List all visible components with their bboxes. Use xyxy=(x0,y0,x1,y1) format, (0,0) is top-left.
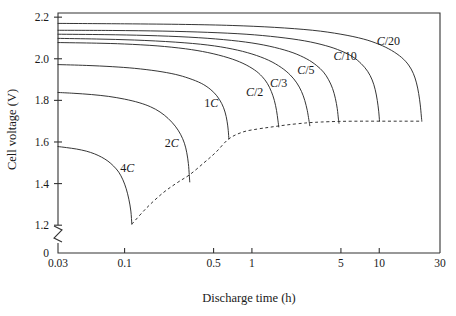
x-tick-label: 0.5 xyxy=(206,257,221,269)
y-tick-label: 2.2 xyxy=(35,11,50,23)
series-label-1c: 1C xyxy=(204,96,219,110)
x-tick-label: 30 xyxy=(434,257,446,269)
x-tick-label: 0.1 xyxy=(117,257,132,269)
x-axis-title: Discharge time (h) xyxy=(202,291,296,305)
x-axis-ticks xyxy=(125,248,380,253)
series-label-c-2: C/2 xyxy=(246,85,263,99)
y-axis-zero-label: 0 xyxy=(43,247,49,259)
series-label-4c: 4C xyxy=(120,161,135,175)
x-tick-label: 1 xyxy=(249,257,255,269)
y-tick-label: 1.8 xyxy=(35,94,50,106)
series-label-c-3: C/3 xyxy=(270,76,287,90)
series-label-2c: 2C xyxy=(165,136,180,150)
curve-1c xyxy=(58,65,229,139)
x-tick-label: 5 xyxy=(338,257,344,269)
y-tick-label: 2.0 xyxy=(35,53,50,65)
discharge-curves xyxy=(58,23,422,224)
y-axis-tick-labels: 1.21.41.61.82.02.2 xyxy=(35,11,50,231)
plot-frame xyxy=(58,13,440,253)
chart-figure: 0.030.10.5151030 1.21.41.61.82.02.2 0 4C… xyxy=(0,0,456,316)
curve-c-5 xyxy=(58,34,339,123)
y-axis-title: Cell voltage (V) xyxy=(5,89,19,170)
curve-4c xyxy=(58,147,132,225)
discharge-curves-chart: 0.030.10.5151030 1.21.41.61.82.02.2 0 4C… xyxy=(0,0,456,316)
series-labels: 4C2C1CC/2C/3C/5C/10C/20 xyxy=(120,34,400,175)
y-tick-label: 1.6 xyxy=(35,136,50,148)
x-tick-label: 0.03 xyxy=(48,257,68,269)
y-axis-break-icon xyxy=(54,226,62,242)
curve-c-10 xyxy=(58,30,380,121)
x-tick-label: 10 xyxy=(373,257,385,269)
series-label-c-20: C/20 xyxy=(377,34,400,48)
curve-c-20 xyxy=(58,23,422,121)
series-label-c-10: C/10 xyxy=(333,49,356,63)
x-axis-tick-labels: 0.030.10.5151030 xyxy=(48,257,446,269)
series-label-c-5: C/5 xyxy=(297,63,314,77)
y-tick-label: 1.2 xyxy=(35,219,50,231)
y-tick-label: 1.4 xyxy=(35,178,50,190)
